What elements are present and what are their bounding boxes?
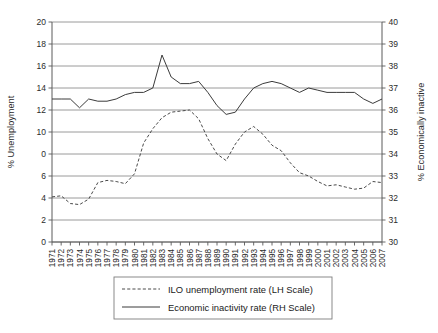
x-axis-tick-label: 2000: [314, 249, 323, 268]
x-axis-tick-label: 1987: [195, 249, 204, 268]
x-axis-tick-label: 1973: [66, 249, 75, 268]
left-axis-tick-label: 14: [37, 83, 47, 93]
x-axis-tick-label: 1993: [250, 249, 259, 268]
x-axis-tick-label: 2005: [360, 249, 369, 268]
right-axis-tick-label: 34: [389, 149, 399, 159]
left-axis-tick-label: 6: [41, 171, 46, 181]
right-axis-tick-label: 39: [389, 39, 399, 49]
x-axis-tick-label: 1983: [158, 249, 167, 268]
x-axis-tick-label: 1989: [213, 249, 222, 268]
chart-legend: ILO unemployment rate (LH Scale) Economi…: [114, 277, 332, 319]
legend-label-ilo-unemployment: ILO unemployment rate (LH Scale): [168, 284, 313, 295]
x-axis-tick-label: 1979: [121, 249, 130, 268]
x-axis-tick-label: 1998: [296, 249, 305, 268]
x-axis-tick-label: 1992: [241, 249, 250, 268]
x-axis-tick-label: 2007: [378, 249, 387, 268]
series-line-1: [52, 110, 382, 205]
right-axis-tick-label: 40: [389, 17, 399, 27]
x-axis-tick-label: 1982: [149, 249, 158, 268]
right-axis-tick-label: 38: [389, 61, 399, 71]
right-axis-tick-label: 36: [389, 105, 399, 115]
x-axis-tick-label: 1974: [76, 249, 85, 268]
left-axis-tick-label: 20: [37, 17, 47, 27]
right-axis-tick-label: 30: [389, 237, 399, 247]
data-series: [52, 55, 382, 205]
left-axis-tick-label: 10: [37, 127, 47, 137]
legend-label-economic-inactivity: Economic inactivity rate (RH Scale): [168, 302, 315, 313]
x-axis-tick-label: 1981: [140, 249, 149, 268]
x-axis-tick-label: 2003: [341, 249, 350, 268]
x-axis-tick-label: 1976: [94, 249, 103, 268]
x-axis-tick-label: 1972: [57, 249, 66, 268]
x-axis-tick-label: 1980: [131, 249, 140, 268]
left-axis-tick-labels: 02460101214161820: [37, 17, 52, 247]
right-axis-tick-label: 32: [389, 193, 399, 203]
x-axis-tick-labels: 1971197219731974197519761977197819791980…: [48, 242, 387, 267]
gridlines: [52, 22, 382, 242]
left-axis-tick-label: 2: [41, 215, 46, 225]
x-axis-tick-label: 1978: [112, 249, 121, 268]
x-axis-tick-label: 1996: [277, 249, 286, 268]
right-axis-tick-label: 31: [389, 215, 399, 225]
x-axis-tick-label: 1997: [286, 249, 295, 268]
x-axis-tick-label: 1999: [305, 249, 314, 268]
dual-axis-line-chart: 02460101214161820 3031323334353637383940…: [0, 0, 438, 333]
x-axis-tick-label: 1984: [167, 249, 176, 268]
x-axis-tick-label: 1995: [268, 249, 277, 268]
left-axis-tick-label: 4: [41, 193, 46, 203]
chart-container: 02460101214161820 3031323334353637383940…: [0, 0, 438, 333]
right-axis-tick-labels: 3031323334353637383940: [382, 17, 398, 247]
x-axis-tick-label: 1994: [259, 249, 268, 268]
x-axis-tick-label: 1971: [48, 249, 57, 268]
x-axis-tick-label: 2006: [369, 249, 378, 268]
left-axis-tick-label: 16: [37, 61, 47, 71]
x-axis-tick-label: 1977: [103, 249, 112, 268]
x-axis-tick-label: 1985: [176, 249, 185, 268]
left-axis-title: % Unemployment: [6, 95, 16, 168]
x-axis-tick-label: 1975: [85, 249, 94, 268]
right-axis-tick-label: 33: [389, 171, 399, 181]
x-axis-tick-label: 1986: [186, 249, 195, 268]
x-axis-tick-label: 1991: [231, 249, 240, 268]
left-axis-tick-label: 18: [37, 39, 47, 49]
right-axis-tick-label: 35: [389, 127, 399, 137]
right-axis-tick-label: 37: [389, 83, 399, 93]
x-axis-tick-label: 2004: [351, 249, 360, 268]
left-axis-tick-label: 12: [37, 105, 47, 115]
left-axis-tick-label: 0: [41, 149, 46, 159]
x-axis-tick-label: 1988: [204, 249, 213, 268]
series-line-2: [52, 55, 382, 114]
x-axis-tick-label: 2002: [332, 249, 341, 268]
right-axis-title: % Economically inactive: [416, 83, 426, 182]
x-axis-tick-label: 2001: [323, 249, 332, 268]
left-axis-tick-label: 0: [41, 237, 46, 247]
x-axis-tick-label: 1990: [222, 249, 231, 268]
